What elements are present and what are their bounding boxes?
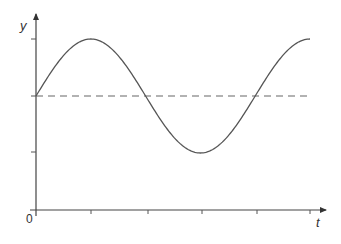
- x-axis-label: t: [316, 215, 321, 230]
- origin-label: 0: [26, 212, 33, 226]
- y-ticks: [31, 39, 36, 152]
- y-axis-label: y: [19, 18, 28, 33]
- sine-wave-chart: y t 0: [0, 0, 341, 244]
